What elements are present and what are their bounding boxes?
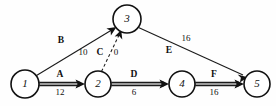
edge-c-activity-C-dummy — [102, 30, 123, 72]
edge-d-duration-label: 6 — [132, 87, 137, 97]
network-svg: A 12 B 10 C 0 D 6 E 16 F 16 1 2 3 4 — [0, 0, 276, 106]
node-1[interactable]: 1 — [11, 70, 39, 98]
edge-e-activity-E — [139, 28, 248, 83]
node-4[interactable]: 4 — [169, 71, 195, 97]
edge-a-activity-label: A — [57, 69, 64, 79]
edge-b-activity-B — [37, 27, 117, 76]
activity-network-diagram: A 12 B 10 C 0 D 6 E 16 F 16 1 2 3 4 — [0, 0, 276, 106]
edge-b-activity-label: B — [58, 35, 65, 45]
node-3[interactable]: 3 — [113, 5, 141, 33]
edge-e-line — [139, 28, 244, 76]
node-3-label: 3 — [123, 12, 130, 24]
edge-f-duration-label: 16 — [210, 87, 220, 97]
edge-a-duration-label: 12 — [56, 87, 65, 97]
edge-b-arrowhead-icon — [106, 27, 116, 36]
node-5-label: 5 — [254, 77, 260, 89]
edge-e-activity-label: E — [166, 45, 172, 55]
node-5[interactable]: 5 — [244, 71, 270, 97]
edge-d-activity-D — [111, 80, 169, 89]
node-1-label: 1 — [22, 77, 28, 89]
node-4-label: 4 — [179, 77, 185, 89]
edge-c-duration-label: 0 — [114, 47, 119, 57]
edge-e-duration-label: 16 — [182, 33, 192, 43]
edge-c-activity-label: C — [97, 47, 104, 57]
edge-f-activity-label: F — [211, 69, 217, 79]
edge-b-duration-label: 10 — [79, 47, 89, 57]
node-2-label: 2 — [95, 77, 101, 89]
node-2[interactable]: 2 — [85, 71, 111, 97]
edge-f-activity-F — [195, 80, 244, 89]
edge-d-activity-label: D — [131, 69, 138, 79]
